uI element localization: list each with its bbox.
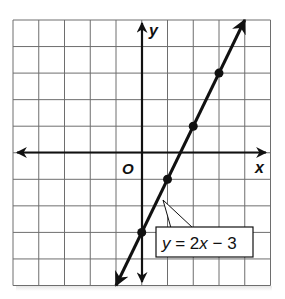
plotted-point <box>215 69 224 78</box>
y-axis-label: y <box>148 22 159 39</box>
equation-eq: = 2 <box>171 234 200 253</box>
x-axis-label: x <box>254 159 265 176</box>
plotted-point <box>137 228 146 237</box>
equation-x: x <box>198 234 208 253</box>
origin-label: O <box>122 160 134 177</box>
coordinate-plane: y x O y = 2x − 3 <box>0 0 285 299</box>
equation-label: y = 2x − 3 <box>161 234 237 253</box>
equation-rest: − 3 <box>208 234 237 253</box>
plotted-point <box>189 122 198 131</box>
plotted-point <box>163 175 172 184</box>
